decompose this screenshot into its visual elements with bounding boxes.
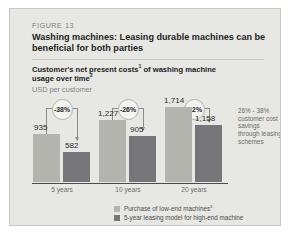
subtitle-main: Customer's net present costs bbox=[32, 65, 138, 74]
chart-baseline-axis bbox=[32, 183, 228, 184]
page-title: Washing machines: Leasing durable machin… bbox=[32, 32, 268, 55]
bar-value-leasing-10-years: 905 bbox=[130, 125, 144, 134]
bar-value-leasing-5-years: 582 bbox=[65, 141, 79, 150]
bar-leasing-10-years bbox=[129, 136, 156, 182]
legend-label-leasing: 5-year leasing model for high-end machin… bbox=[124, 214, 243, 221]
bar-chart-plot: 935 582 5 years 1,227 905 10 years 1,714… bbox=[32, 95, 228, 193]
category-label-20-years: 20 years bbox=[164, 186, 224, 193]
bar-value-purchase-10-years: 1,227 bbox=[98, 109, 118, 118]
category-label-10-years: 10 years bbox=[98, 186, 158, 193]
bar-value-purchase-20-years: 1,714 bbox=[164, 96, 184, 105]
savings-annotation: 26% - 38% customer cost savings through … bbox=[238, 107, 281, 146]
bar-leasing-5-years bbox=[63, 152, 90, 182]
bar-group-20-years: 1,714 1,158 20 years bbox=[164, 95, 224, 193]
legend-item-leasing: 5-year leasing model for high-end machin… bbox=[114, 214, 243, 221]
bar-group-5-years: 935 582 5 years bbox=[32, 95, 92, 193]
chart-legend: Purchase of low-end machines3 5-year lea… bbox=[114, 205, 243, 223]
bar-purchase-5-years bbox=[33, 134, 60, 182]
bar-value-purchase-5-years: 935 bbox=[34, 123, 48, 132]
figure-card: FIGURE 13 Washing machines: Leasing dura… bbox=[9, 8, 281, 226]
header-divider bbox=[32, 59, 264, 60]
legend-label-purchase: Purchase of low-end machines3 bbox=[124, 205, 212, 212]
category-label-5-years: 5 years bbox=[32, 186, 92, 193]
footnote-marker-3: 3 bbox=[210, 204, 212, 209]
bar-leasing-20-years bbox=[195, 125, 222, 182]
bar-value-leasing-20-years: 1,158 bbox=[195, 114, 215, 123]
chart-subtitle: Customer's net present costs1 of washing… bbox=[32, 65, 222, 84]
bar-purchase-20-years bbox=[165, 107, 192, 182]
footnote-marker-2: 2 bbox=[90, 73, 93, 79]
bar-purchase-10-years bbox=[99, 120, 126, 182]
legend-swatch-leasing bbox=[114, 215, 120, 221]
figure-label: FIGURE 13 bbox=[32, 21, 74, 30]
chart-units: USD per customer bbox=[32, 85, 92, 94]
legend-swatch-purchase bbox=[114, 206, 120, 212]
bar-group-10-years: 1,227 905 10 years bbox=[98, 95, 158, 193]
legend-item-purchase: Purchase of low-end machines3 bbox=[114, 205, 243, 212]
